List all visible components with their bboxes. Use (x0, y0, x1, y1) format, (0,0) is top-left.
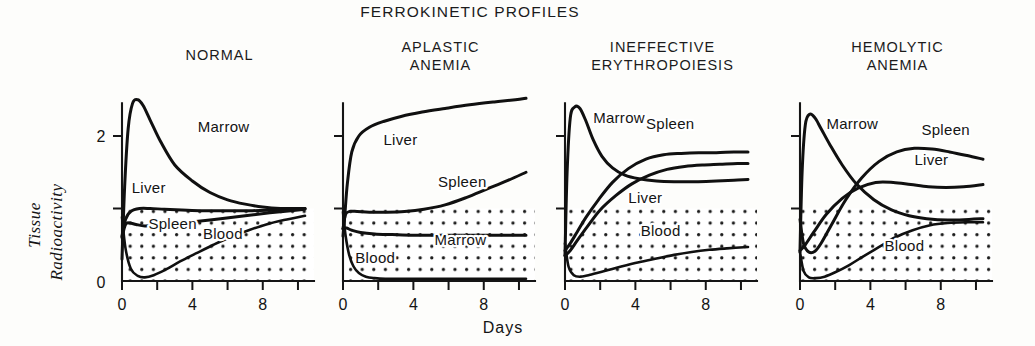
y-axis-title: Tissue Radioactivity (25, 183, 66, 281)
curve-label-spleen: Spleen (646, 115, 695, 132)
curve-label-blood: Blood (355, 249, 395, 266)
ferrokinetic-profiles-figure: FERROKINETIC PROFILES NORMAL20048MarrowM… (0, 0, 1035, 346)
curve-label-liver: Liver (628, 189, 662, 206)
curve-label-blood: Blood (884, 237, 924, 254)
x-axis-title: Days (483, 319, 523, 336)
x-tick-label: 0 (561, 296, 570, 313)
curve-label-spleen: Spleen (148, 215, 197, 232)
x-tick-label: 8 (258, 296, 267, 313)
x-tick-label: 8 (936, 296, 945, 313)
curve-label-liver: Liver (383, 131, 417, 148)
y-axis-title-line2: Radioactivity (47, 183, 66, 281)
curve-label-spleen: Spleen (438, 173, 487, 190)
curve-label-blood: Blood (641, 222, 681, 239)
panel-normal: NORMAL20048MarrowMarrowLiverLiverSpleenS… (97, 47, 314, 313)
panel-title-line: ANEMIA (410, 57, 472, 73)
x-tick-label: 4 (866, 296, 875, 313)
curve-label-marrow: Marrow (198, 118, 250, 135)
panel-title-line: HEMOLYTIC (851, 39, 944, 55)
panel-title-line: ERYTHROPOIESIS (591, 57, 734, 73)
panel-hemolytic-anemia: HEMOLYTICANEMIA048MarrowMarrowSpleenSple… (791, 39, 992, 313)
y-axis-title-line1: Tissue (25, 202, 44, 248)
panel-title-line: INEFFECTIVE (610, 39, 715, 55)
x-tick-label: 8 (479, 296, 488, 313)
stippled-region (566, 209, 757, 281)
x-tick-label: 4 (188, 296, 197, 313)
x-tick-label: 0 (118, 296, 127, 313)
panel-aplastic-anemia: APLASTICANEMIA048LiverLiverSpleenSpleenM… (334, 39, 535, 313)
y-tick-label: 0 (97, 274, 106, 291)
x-tick-label: 0 (339, 296, 348, 313)
curve-label-spleen: Spleen (921, 121, 970, 138)
curve-label-liver: Liver (132, 179, 166, 196)
figure-title: FERROKINETIC PROFILES (360, 3, 579, 20)
y-tick-label: 2 (97, 128, 106, 145)
panel-ineffective-erythropoiesis: INEFFECTIVEERYTHROPOIESIS048MarrowMarrow… (556, 39, 757, 313)
panel-title-line: NORMAL (185, 47, 253, 63)
panel-title-line: APLASTIC (401, 39, 479, 55)
curve-label-marrow: Marrow (593, 109, 645, 126)
panels-group: NORMAL20048MarrowMarrowLiverLiverSpleenS… (97, 39, 992, 313)
x-tick-label: 0 (796, 296, 805, 313)
curve-label-marrow: Marrow (435, 231, 487, 248)
x-tick-label: 8 (701, 296, 710, 313)
curve-label-blood: Blood (203, 225, 243, 242)
curve-label-liver: Liver (914, 151, 948, 168)
x-tick-label: 4 (409, 296, 418, 313)
curve-label-marrow: Marrow (826, 115, 878, 132)
panel-title-line: ANEMIA (867, 57, 929, 73)
x-tick-label: 4 (631, 296, 640, 313)
